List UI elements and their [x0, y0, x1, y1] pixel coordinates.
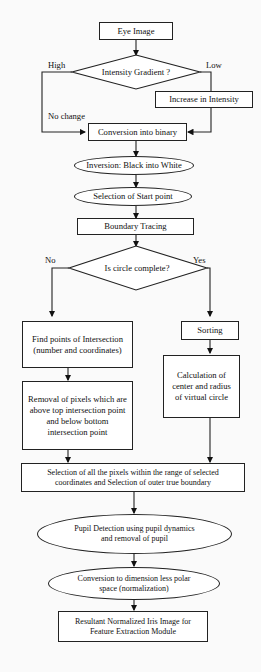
conversion-binary-box: Conversion into binary [88, 123, 187, 141]
increase-intensity-box: Increase in Intensity [155, 91, 253, 108]
circle-complete-decision: Is circle complete? [90, 263, 184, 273]
yes-label: Yes [193, 255, 206, 265]
low-label: Low [206, 60, 222, 70]
no-label: No [45, 255, 56, 265]
intensity-gradient-decision: Intensity Gradient ? [90, 67, 182, 77]
eye-image-box: Eye Image [99, 22, 173, 40]
high-label: High [48, 60, 65, 70]
sorting-box: Sorting [181, 321, 239, 340]
resultant-iris-box: Resultant Normalized Iris Image for Feat… [58, 611, 208, 642]
find-points-box: Find points of Intersection (number and … [22, 321, 133, 368]
removal-pixels-box: Removal of pixels which are above top in… [22, 381, 133, 450]
conversion-polar-ellipse: Conversion to dimension less polar space… [48, 567, 220, 600]
no-change-label: No change [48, 111, 85, 121]
calculation-center-box: Calculation of center and radius of virt… [163, 355, 240, 418]
selection-pixels-box: Selection of all the pixels within the r… [21, 463, 245, 492]
boundary-tracing-box: Boundary Tracing [77, 218, 194, 235]
pupil-detection-ellipse: Pupil Detection using pupil dynamics and… [37, 514, 232, 554]
start-point-ellipse: Selection of Start point [74, 187, 192, 206]
inversion-ellipse: Inversion: Black into White [74, 156, 194, 175]
